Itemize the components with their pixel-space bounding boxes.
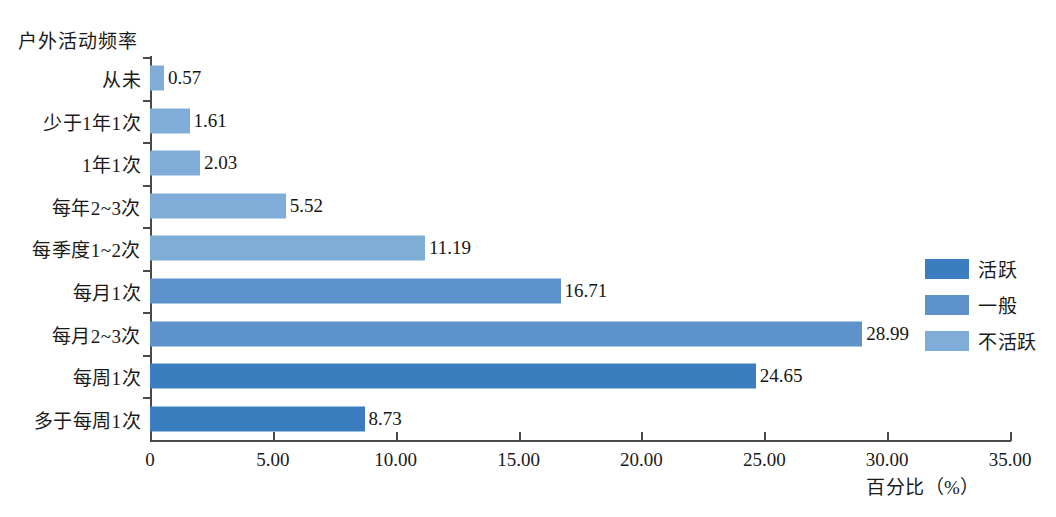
legend-label: 不活跃 bbox=[978, 327, 1037, 354]
legend-label: 一般 bbox=[978, 291, 1017, 318]
x-axis-tick-label: 35.00 bbox=[989, 449, 1032, 471]
x-axis-tick bbox=[764, 432, 766, 441]
y-axis-tick-label: 从未 bbox=[102, 65, 141, 92]
x-axis-tick-label: 30.00 bbox=[866, 449, 909, 471]
y-axis-tick bbox=[143, 270, 150, 272]
y-axis-tick bbox=[143, 397, 150, 399]
bar-row: 每月2~3次28.99 bbox=[150, 312, 1010, 355]
y-axis-tick-label: 每周1次 bbox=[73, 363, 142, 390]
bar-row: 每周1次24.65 bbox=[150, 355, 1010, 398]
bar-value-label: 16.71 bbox=[565, 280, 608, 302]
legend-item: 不活跃 bbox=[925, 327, 1037, 354]
bar-value-label: 11.19 bbox=[429, 237, 471, 259]
x-axis-tick-label: 25.00 bbox=[743, 449, 786, 471]
legend-swatch-icon bbox=[925, 295, 969, 315]
plot-area: 从未0.57少于1年1次1.611年1次2.03每年2~3次5.52每季度1~2… bbox=[150, 57, 1010, 440]
y-axis-tick-label: 每年2~3次 bbox=[52, 192, 141, 219]
bar-row: 从未0.57 bbox=[150, 57, 1010, 100]
y-axis-tick-label: 每月1次 bbox=[73, 278, 142, 305]
y-axis-tick bbox=[143, 227, 150, 229]
legend-swatch-icon bbox=[925, 259, 969, 279]
chart-legend: 活跃一般不活跃 bbox=[925, 255, 1037, 354]
x-axis-tick bbox=[641, 432, 643, 441]
bar bbox=[150, 406, 365, 431]
bar-row: 每月1次16.71 bbox=[150, 270, 1010, 313]
bar bbox=[150, 193, 286, 218]
bar-row: 每季度1~2次11.19 bbox=[150, 227, 1010, 270]
y-axis-tick-label: 少于1年1次 bbox=[43, 107, 141, 134]
y-axis-tick bbox=[143, 185, 150, 187]
bar bbox=[150, 279, 561, 304]
bar-row: 多于每周1次8.73 bbox=[150, 397, 1010, 440]
bar bbox=[150, 321, 862, 346]
bar-value-label: 5.52 bbox=[290, 195, 323, 217]
y-axis-tick bbox=[143, 57, 150, 59]
y-axis-tick bbox=[143, 355, 150, 357]
bar-value-label: 8.73 bbox=[369, 408, 402, 430]
y-axis-tick-label: 每季度1~2次 bbox=[32, 235, 141, 262]
bar-value-label: 0.57 bbox=[168, 67, 201, 89]
x-axis-tick bbox=[396, 432, 398, 441]
bar-value-label: 24.65 bbox=[760, 365, 803, 387]
bar-chart: 户外活动频率 从未0.57少于1年1次1.611年1次2.03每年2~3次5.5… bbox=[0, 0, 1056, 517]
bar-row: 少于1年1次1.61 bbox=[150, 100, 1010, 143]
bar-value-label: 1.61 bbox=[194, 110, 227, 132]
y-axis-tick bbox=[143, 142, 150, 144]
bar bbox=[150, 151, 200, 176]
bar-row: 1年1次2.03 bbox=[150, 142, 1010, 185]
x-axis-tick bbox=[519, 432, 521, 441]
y-axis-tick-label: 1年1次 bbox=[82, 150, 141, 177]
bar bbox=[150, 236, 425, 261]
bar bbox=[150, 108, 190, 133]
x-axis-tick-label: 10.00 bbox=[374, 449, 417, 471]
bar bbox=[150, 364, 756, 389]
bar-value-label: 2.03 bbox=[204, 152, 237, 174]
x-axis-tick-label: 0 bbox=[145, 449, 155, 471]
x-axis-tick-label: 15.00 bbox=[497, 449, 540, 471]
y-axis-tick-label: 每月2~3次 bbox=[52, 320, 141, 347]
x-axis-tick-label: 20.00 bbox=[620, 449, 663, 471]
y-axis-tick bbox=[143, 312, 150, 314]
x-axis-title: 百分比（%） bbox=[866, 472, 980, 499]
x-axis-tick-label: 5.00 bbox=[256, 449, 289, 471]
y-axis-title: 户外活动频率 bbox=[18, 26, 138, 53]
x-axis-tick bbox=[150, 432, 152, 441]
x-axis-tick bbox=[273, 432, 275, 441]
y-axis-tick-label: 多于每周1次 bbox=[34, 405, 142, 432]
bar-value-label: 28.99 bbox=[866, 323, 909, 345]
legend-swatch-icon bbox=[925, 331, 969, 351]
legend-label: 活跃 bbox=[978, 255, 1017, 282]
y-axis-tick bbox=[143, 100, 150, 102]
bar-row: 每年2~3次5.52 bbox=[150, 185, 1010, 228]
bar bbox=[150, 66, 164, 91]
legend-item: 一般 bbox=[925, 291, 1037, 318]
x-axis-tick bbox=[887, 432, 889, 441]
legend-item: 活跃 bbox=[925, 255, 1037, 282]
x-axis-tick bbox=[1010, 432, 1012, 441]
